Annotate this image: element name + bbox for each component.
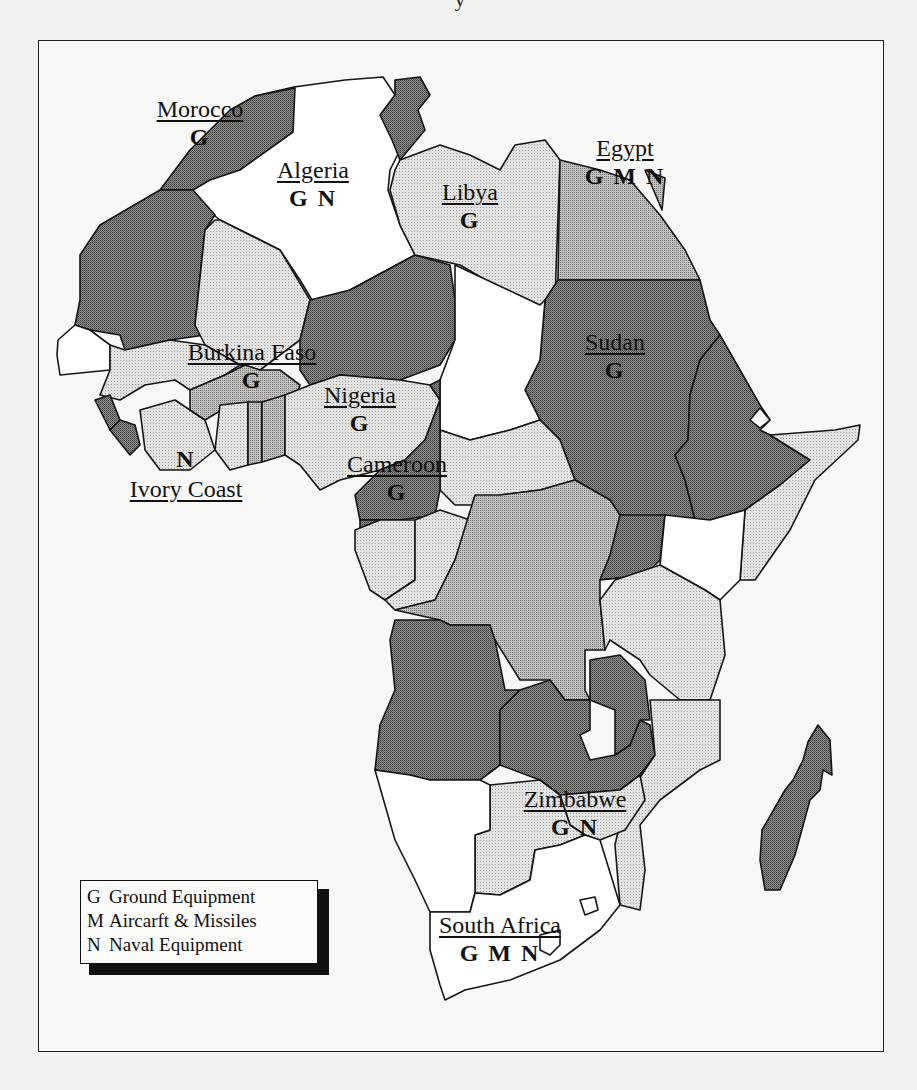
country-madagascar	[760, 725, 832, 890]
label-burkina-faso: Burkina Faso G	[188, 340, 317, 392]
label-sudan: Sudan G	[585, 330, 645, 382]
country-benin	[262, 395, 285, 462]
legend: G Ground Equipment M Aircarft & Missiles…	[80, 880, 318, 964]
country-codes: G	[157, 125, 244, 149]
country-codes: G N	[524, 815, 627, 839]
legend-item-aircraft: M Aircarft & Missiles	[87, 909, 311, 933]
country-codes: G M N	[585, 164, 666, 188]
label-egypt: Egypt G M N	[585, 136, 666, 188]
country-name: Nigeria	[324, 383, 396, 407]
country-codes: G	[188, 368, 317, 392]
country-name: Algeria	[277, 158, 349, 182]
country-mauritania	[75, 190, 215, 350]
country-codes: N	[130, 447, 243, 471]
country-name: Sudan	[585, 330, 645, 354]
legend-item-naval: N Naval Equipment	[87, 933, 311, 957]
country-name: Morocco	[157, 97, 244, 121]
country-name: South Africa	[439, 913, 561, 937]
country-codes: G N	[277, 186, 349, 210]
label-ivory-coast: N Ivory Coast	[130, 443, 243, 501]
legend-label: Ground Equipment	[109, 885, 255, 909]
country-name: Zimbabwe	[524, 787, 627, 811]
country-name: Cameroon	[347, 452, 447, 476]
legend-label: Aircarft & Missiles	[109, 909, 257, 933]
label-libya: Libya G	[442, 180, 498, 232]
label-morocco: Morocco G	[157, 97, 244, 149]
label-cameroon: Cameroon G	[347, 452, 447, 504]
label-nigeria: Nigeria G	[324, 383, 396, 435]
country-codes: G	[347, 480, 447, 504]
country-codes: G	[442, 208, 498, 232]
country-name: Ivory Coast	[130, 477, 243, 501]
country-codes: G M N	[439, 941, 561, 965]
country-name: Libya	[442, 180, 498, 204]
country-codes: G	[324, 411, 396, 435]
country-namibia	[375, 770, 490, 912]
legend-key: M	[87, 909, 101, 933]
legend-key: G	[87, 885, 101, 909]
label-south-africa: South Africa G M N	[439, 913, 561, 965]
country-name: Egypt	[585, 136, 666, 160]
country-togo	[248, 402, 262, 465]
legend-label: Naval Equipment	[109, 933, 243, 957]
label-zimbabwe: Zimbabwe G N	[524, 787, 627, 839]
label-algeria: Algeria G N	[277, 158, 349, 210]
legend-key: N	[87, 933, 101, 957]
country-codes: G	[585, 358, 645, 382]
country-name: Burkina Faso	[188, 340, 317, 364]
legend-item-ground: G Ground Equipment	[87, 885, 311, 909]
